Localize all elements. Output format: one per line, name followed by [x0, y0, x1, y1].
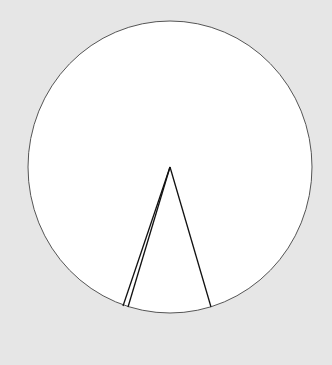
diagram-canvas: [0, 0, 332, 365]
